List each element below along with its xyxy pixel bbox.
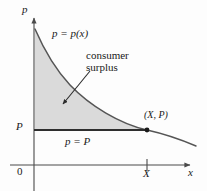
price-line-label: p = P (65, 136, 90, 148)
demand-curve-label: p = p(x) (52, 28, 88, 40)
point-coordinate-label: (X, P) (144, 110, 168, 121)
point-X-P-marker (145, 128, 150, 133)
origin-label: 0 (17, 166, 23, 178)
consumer-surplus-region (35, 29, 147, 130)
consumer-surplus-label-line1: consumer (86, 50, 129, 62)
figure-canvas (0, 0, 207, 191)
price-tick-label: P (16, 121, 23, 133)
consumer-surplus-label: consumer surplus (86, 50, 129, 73)
consumer-surplus-label-line2: surplus (86, 62, 129, 74)
consumer-surplus-figure: p x 0 P X p = p(x) p = P (X, P) consumer… (0, 0, 207, 191)
x-axis-label: x (188, 167, 193, 179)
quantity-tick-label: X (143, 168, 150, 180)
p-axis-label: p (22, 4, 28, 16)
